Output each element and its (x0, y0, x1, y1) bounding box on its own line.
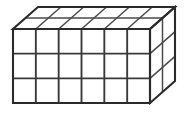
cuboid-figure-container: Rectangular prism composed of unit cubes (0, 0, 188, 118)
cuboid-figure-svg (0, 0, 188, 118)
